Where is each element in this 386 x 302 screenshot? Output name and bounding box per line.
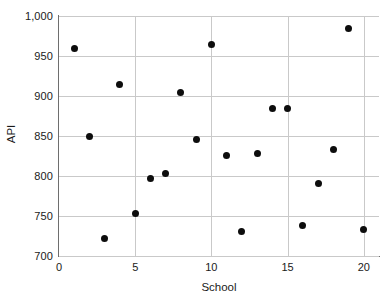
- y-axis-tick-label: 1,000: [1, 11, 53, 22]
- y-axis-tick-label: 900: [1, 91, 53, 102]
- y-axis-tick-label: 950: [1, 51, 53, 62]
- data-point: [71, 45, 78, 52]
- x-axis-tick-label: 20: [358, 262, 370, 273]
- gridline-horizontal: [59, 56, 379, 57]
- data-point: [299, 222, 306, 229]
- data-point: [360, 226, 367, 233]
- data-point: [101, 235, 108, 242]
- data-point: [147, 175, 154, 182]
- y-axis-tick-label: 800: [1, 171, 53, 182]
- data-point: [254, 150, 261, 157]
- gridline-horizontal: [59, 216, 379, 217]
- data-point: [223, 152, 230, 159]
- y-axis-tick-label: 750: [1, 211, 53, 222]
- x-axis-tick-label: 15: [281, 262, 293, 273]
- gridline-horizontal: [59, 136, 379, 137]
- x-axis-tick-label: 0: [56, 262, 62, 273]
- gridline-horizontal: [59, 256, 379, 257]
- data-point: [116, 81, 123, 88]
- gridline-horizontal: [59, 96, 379, 97]
- gridline-vertical: [211, 16, 212, 256]
- plot-area: [59, 16, 379, 256]
- gridline-vertical: [364, 16, 365, 256]
- data-point: [345, 25, 352, 32]
- data-point: [193, 136, 200, 143]
- data-point: [315, 180, 322, 187]
- gridline-horizontal: [59, 16, 379, 17]
- data-point: [132, 210, 139, 217]
- gridline-vertical: [135, 16, 136, 256]
- data-point: [86, 133, 93, 140]
- data-point: [284, 105, 291, 112]
- data-point: [208, 41, 215, 48]
- scatter-plot-figure: 7007508008509009501,000 School API 05101…: [0, 0, 386, 302]
- data-point: [330, 146, 337, 153]
- y-axis-title: API: [5, 114, 17, 154]
- x-axis-tick-label: 10: [205, 262, 217, 273]
- x-axis-tick-label: 5: [132, 262, 138, 273]
- gridline-horizontal: [59, 176, 379, 177]
- x-axis-title: School: [59, 281, 379, 293]
- data-point: [238, 228, 245, 235]
- y-axis-tick-label: 700: [1, 251, 53, 262]
- data-point: [269, 105, 276, 112]
- gridline-vertical: [288, 16, 289, 256]
